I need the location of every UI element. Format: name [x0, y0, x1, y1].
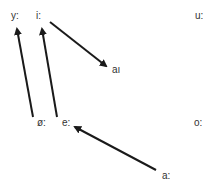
vowel-a: a: [162, 171, 170, 181]
arrows-layer [0, 0, 210, 186]
vowel-ai: aı [112, 65, 120, 75]
arrow-i-to-ai [50, 22, 106, 66]
arrow-a-to-e [75, 127, 156, 170]
arrow-e-to-i [42, 29, 57, 117]
vowel-o: o: [194, 118, 202, 128]
vowel-e: e: [62, 118, 70, 128]
vowel-oe: ø: [37, 118, 46, 128]
arrow-oe-to-y [17, 29, 33, 117]
vowel-i: i: [36, 11, 41, 21]
vowel-y: y: [11, 11, 19, 21]
vowel-u: u: [195, 11, 203, 21]
